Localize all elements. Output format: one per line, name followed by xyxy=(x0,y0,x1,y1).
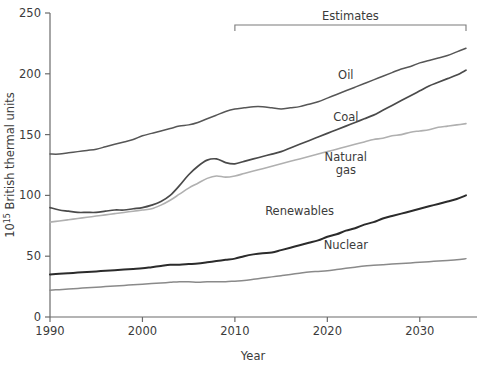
y-axis-tick-label: 150 xyxy=(19,128,41,142)
y-axis-title: 1015 British thermal units xyxy=(3,92,17,238)
x-axis-tick-label: 2010 xyxy=(220,324,249,338)
series-label-oil: Oil xyxy=(338,68,353,82)
series-labels: OilCoalNaturalgasRenewablesNuclear xyxy=(265,68,368,252)
series-line-natural-gas xyxy=(50,124,466,222)
x-axis-tick-label: 1990 xyxy=(35,324,64,338)
chart-canvas: 050100150200250 19902000201020202030 Oil… xyxy=(0,0,477,369)
estimates-bracket: Estimates xyxy=(235,9,466,31)
series-label-coal: Coal xyxy=(333,110,358,124)
y-axis-tick-label: 50 xyxy=(26,249,41,263)
series-label-natural-gas: Naturalgas xyxy=(325,150,367,177)
x-axis: 19902000201020202030 xyxy=(35,317,477,338)
y-axis-tick-label: 250 xyxy=(19,6,41,20)
x-axis-title: Year xyxy=(240,349,266,363)
y-axis-tick-label: 100 xyxy=(19,188,41,202)
x-axis-tick-label: 2020 xyxy=(313,324,342,338)
series-label-nuclear: Nuclear xyxy=(324,238,369,252)
series-line-nuclear xyxy=(50,259,466,291)
y-axis-title-exponent: 15 xyxy=(3,213,12,223)
series-label-renewables: Renewables xyxy=(265,204,334,218)
x-axis-tick-label: 2030 xyxy=(405,324,434,338)
series-line-renewables xyxy=(50,195,466,274)
y-axis-title-rest: British thermal units xyxy=(3,92,17,213)
y-axis-tick-label: 0 xyxy=(34,310,41,324)
series-line-oil xyxy=(50,48,466,154)
series-lines xyxy=(50,48,466,290)
estimates-bracket-line xyxy=(235,25,466,31)
svg-text:1015 British thermal units: 1015 British thermal units xyxy=(3,92,17,238)
y-axis: 050100150200250 xyxy=(19,6,50,324)
energy-consumption-line-chart: 050100150200250 19902000201020202030 Oil… xyxy=(0,0,477,369)
estimates-bracket-label: Estimates xyxy=(322,9,379,23)
series-line-coal xyxy=(50,70,466,212)
x-axis-tick-label: 2000 xyxy=(128,324,157,338)
y-axis-title-base: 10 xyxy=(3,223,17,238)
y-axis-tick-label: 200 xyxy=(19,67,41,81)
